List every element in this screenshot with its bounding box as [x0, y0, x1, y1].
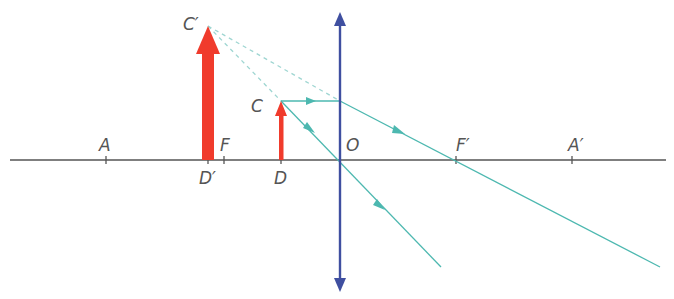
label-F-prime: F′ — [456, 137, 470, 154]
label-F: F — [220, 137, 230, 154]
ray-arrow-icon — [303, 122, 315, 133]
virtual-image-arrow — [196, 26, 220, 160]
ray-arrow-icon — [392, 125, 405, 134]
label-O: O — [346, 137, 359, 154]
virtual-ray-extensions — [208, 26, 340, 101]
label-A: A — [99, 137, 111, 154]
ray-arrow-icon — [373, 199, 385, 210]
label-D-prime: D′ — [199, 170, 216, 187]
object-arrow — [275, 101, 287, 160]
converging-lens — [334, 12, 346, 292]
ray-refracted-through-focus — [340, 101, 660, 267]
label-C-prime: C′ — [183, 16, 199, 33]
label-D: D — [274, 170, 287, 187]
label-A-prime: A′ — [568, 137, 584, 154]
label-C: C — [251, 98, 263, 115]
light-rays — [281, 97, 660, 267]
ray-arrow-icon — [306, 97, 316, 105]
